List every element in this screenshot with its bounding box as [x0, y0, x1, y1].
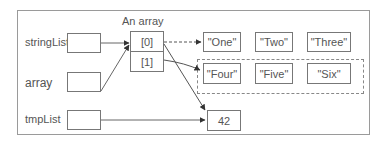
arrows-layer — [0, 0, 383, 145]
arrow-cell1-to-list-two — [164, 60, 200, 70]
arrow-array-to-cell0 — [101, 45, 129, 91]
arrow-cell0-to-42 — [164, 44, 205, 110]
